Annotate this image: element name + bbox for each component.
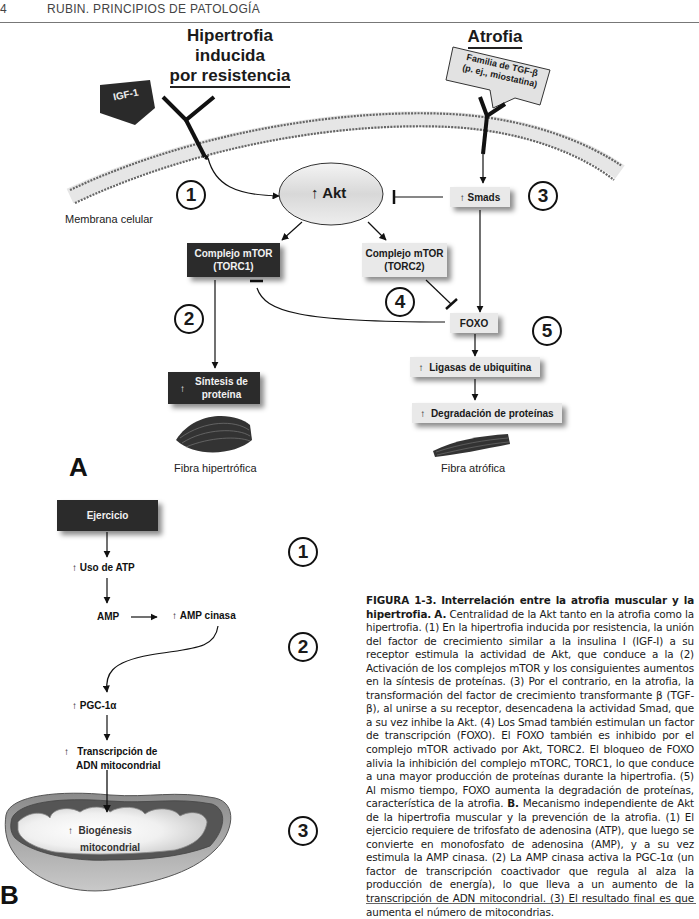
title-hypertrophy-line2: por resistencia	[170, 66, 291, 88]
up-arrow-icon: ↑	[419, 361, 424, 374]
up-arrow-icon: ↑	[311, 184, 319, 201]
ampk-label: ↑ AMP cinasa	[172, 610, 236, 621]
up-arrow-icon: ↑	[420, 407, 425, 420]
caption-divider	[366, 903, 696, 904]
fiber-hypertrophic-label: Fibra hipertrófica	[174, 462, 257, 474]
title-atrophy: Atrofia	[455, 27, 535, 47]
exercise-box: Ejercicio	[57, 500, 158, 531]
panel-a-letter: A	[69, 452, 88, 483]
step-b-1: 1	[288, 537, 318, 567]
up-arrow-icon: ↑	[64, 746, 69, 757]
caption-b-text: Mecanismo independiente de Akt de la hip…	[366, 797, 694, 917]
atp-usage-label: ↑ Uso de ATP	[72, 562, 135, 573]
step-a-5: 5	[532, 316, 562, 346]
caption-a-marker: A.	[434, 608, 446, 620]
title-hypertrophy: Hipertrofia inducida por resistencia	[150, 26, 310, 86]
protein-synthesis-box: ↑ Síntesis de proteína	[168, 372, 260, 404]
transcription-label: ↑ Transcripción de ADN mitocondrial	[64, 745, 160, 773]
pgc1a-label: ↑ PGC-1α	[72, 700, 117, 711]
step-b-2: 2	[288, 632, 318, 662]
fiber-atrophic-label: Fibra atrófica	[441, 462, 505, 474]
up-arrow-icon: ↑	[68, 825, 73, 836]
up-arrow-icon: ↑	[460, 191, 465, 204]
torc2-box: Complejo mTOR (TORC2)	[362, 243, 447, 277]
inhibit-foxo-to-torc1	[257, 288, 445, 322]
arrow-ampk-to-pgc	[107, 626, 218, 692]
step-a-3: 3	[528, 181, 558, 211]
protein-degradation-box: ↑ Degradación de proteínas	[412, 403, 562, 423]
smads-box: ↑ Smads	[450, 187, 510, 207]
caption-b-marker: B.	[507, 797, 519, 809]
up-arrow-icon: ↑	[72, 700, 77, 711]
caption-a-text: Centralidad de la Akt tanto en la atrofi…	[366, 608, 694, 810]
figure-caption: FIGURA 1-3. Interrelación entre la atrof…	[366, 594, 694, 919]
step-b-3: 3	[288, 816, 318, 846]
atrophic-fiber-icon	[433, 434, 510, 457]
biogenesis-label: ↑ Biogénesis mitocondrial	[68, 822, 140, 856]
up-arrow-icon: ↑	[172, 610, 177, 621]
membrane-label: Membrana celular	[65, 213, 153, 225]
hypertrophic-fiber-icon	[176, 416, 252, 452]
step-a-1: 1	[176, 180, 206, 210]
foxo-box: FOXO	[450, 313, 498, 333]
step-a-4: 4	[385, 287, 415, 317]
torc1-box: Complejo mTOR (TORC1)	[187, 243, 280, 277]
title-hypertrophy-line1: Hipertrofia inducida	[150, 26, 310, 66]
panel-b-letter: B	[0, 880, 19, 911]
arrow-akt-to-torc1	[282, 222, 302, 240]
up-arrow-icon: ↑	[180, 382, 185, 395]
figure-id: FIGURA 1-3.	[366, 594, 436, 606]
akt-label: ↑ Akt	[311, 184, 346, 201]
ubiquitin-ligases-box: ↑ Ligasas de ubiquitina	[410, 357, 540, 377]
inhibit-torc2-to-foxo	[426, 280, 451, 304]
up-arrow-icon: ↑	[72, 562, 77, 573]
arrow-akt-to-torc2	[368, 222, 386, 240]
arrow-igf-to-akt	[208, 158, 279, 196]
amp-label: AMP	[97, 611, 119, 622]
step-a-2: 2	[174, 304, 204, 334]
